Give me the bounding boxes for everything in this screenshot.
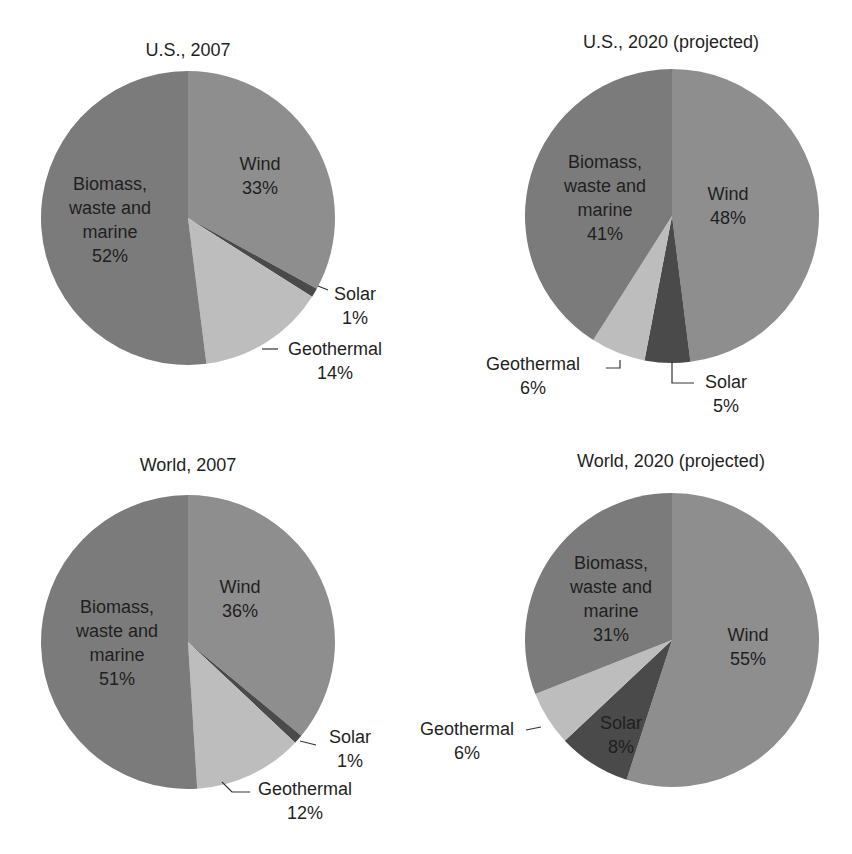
label-wind: Wind 36% <box>200 575 280 623</box>
label-biomass: Biomass, waste and marine 31% <box>556 551 666 647</box>
label-solar: Solar 5% <box>696 370 756 418</box>
leader-line <box>606 360 620 368</box>
label-wind: Wind 55% <box>708 623 788 671</box>
label-wind: Wind 33% <box>220 152 300 200</box>
leader-line <box>526 727 541 730</box>
label-solar: Solar 1% <box>320 725 380 773</box>
pie-panel-world-2007: World, 2007 Wind 36% Biomass, waste and … <box>0 427 426 854</box>
label-geothermal: Geothermal 12% <box>250 777 360 825</box>
label-geothermal: Geothermal 14% <box>280 337 390 385</box>
leader-line <box>300 741 316 745</box>
leader-line <box>672 362 694 383</box>
pie-panel-us-2020: U.S., 2020 (projected) Wind 48% Biomass,… <box>426 0 852 427</box>
label-solar: Solar 8% <box>591 711 651 759</box>
label-biomass: Biomass, waste and marine 51% <box>62 595 172 691</box>
pie-panel-us-2007: U.S., 2007 Wind 33% Biomass, waste and m… <box>0 0 426 427</box>
label-solar: Solar 1% <box>325 282 385 330</box>
label-geothermal: Geothermal 6% <box>412 717 522 765</box>
label-biomass: Biomass, waste and marine 52% <box>55 172 165 268</box>
label-geothermal: Geothermal 6% <box>478 352 588 400</box>
label-biomass: Biomass, waste and marine 41% <box>550 150 660 246</box>
pie-panel-world-2020: World, 2020 (projected) Wind 55% Biomass… <box>426 427 852 854</box>
label-wind: Wind 48% <box>688 182 768 230</box>
